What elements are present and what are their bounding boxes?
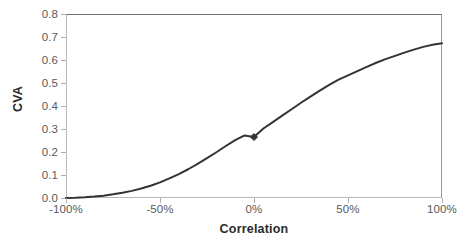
x-tick-label-4: 100% — [407, 203, 468, 215]
y-tick-label-7: 0.7 — [14, 32, 58, 44]
x-tick-label-0: -100% — [31, 203, 101, 215]
x-axis-title: Correlation — [66, 222, 442, 236]
y-tick-label-5: 0.5 — [14, 78, 58, 90]
cva-correlation-chart: CVA 0.0 0.1 0.2 0.3 0.4 0.5 0.6 0.7 0.8 … — [0, 0, 468, 244]
y-tick-label-8: 0.8 — [14, 9, 58, 21]
y-tick-label-4: 0.4 — [14, 101, 58, 113]
y-tick-label-1: 0.1 — [14, 170, 58, 182]
x-tick-label-2: 0% — [219, 203, 289, 215]
x-tick-label-1: -50% — [125, 203, 195, 215]
plot-canvas — [66, 14, 442, 198]
y-tick-label-6: 0.6 — [14, 55, 58, 67]
x-tick-label-3: 50% — [313, 203, 383, 215]
cva-curve — [66, 43, 442, 198]
y-tick-label-2: 0.2 — [14, 147, 58, 159]
y-tick-label-3: 0.3 — [14, 124, 58, 136]
